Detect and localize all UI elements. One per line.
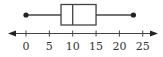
- box-plot: [23, 5, 136, 26]
- box-plot-chart: 0510152025: [0, 0, 163, 57]
- number-line-axis: 0510152025: [8, 31, 158, 54]
- axis-tick-label: 10: [66, 40, 80, 53]
- interquartile-box: [61, 5, 96, 26]
- axis-tick-label: 25: [136, 40, 150, 53]
- min-dot-icon: [23, 12, 28, 17]
- axis-tick-label: 0: [23, 40, 30, 53]
- left-arrow-icon: [8, 31, 16, 37]
- box-plot-svg: 0510152025: [0, 0, 163, 57]
- axis-tick-label: 20: [112, 40, 126, 53]
- axis-tick-label: 15: [89, 40, 103, 53]
- right-arrow-icon: [150, 31, 158, 37]
- max-dot-icon: [131, 12, 136, 17]
- axis-tick-label: 5: [46, 40, 53, 53]
